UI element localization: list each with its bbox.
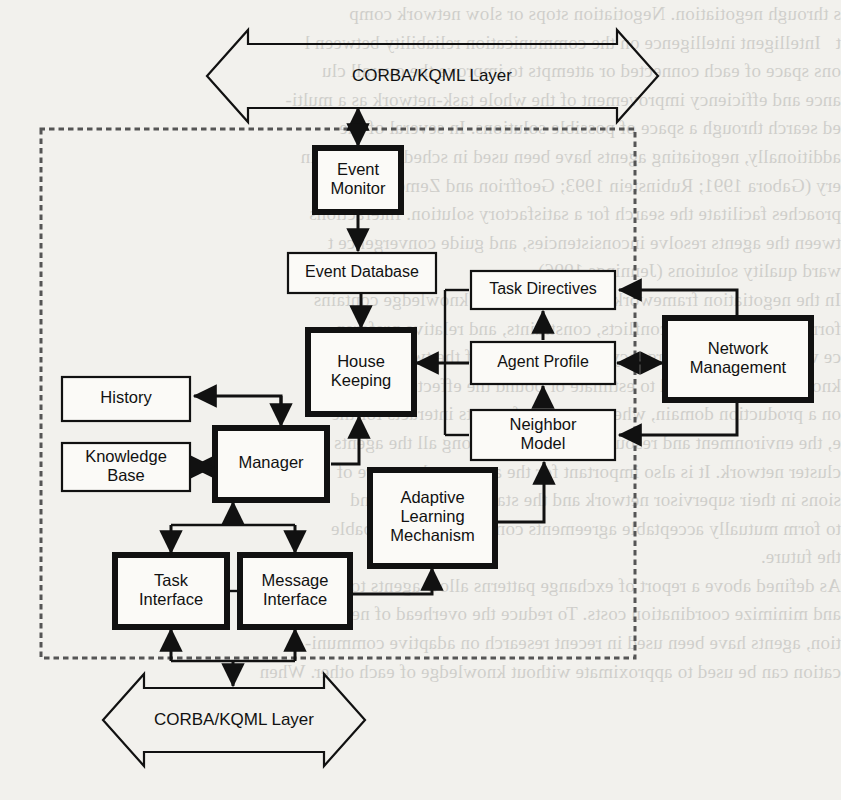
architecture-diagram: CORBA/KQML Layer CORBA/KQML Layer EventM… xyxy=(0,0,841,800)
top-corba-kqml-layer: CORBA/KQML Layer xyxy=(207,30,658,122)
conn-manager-housekeeping xyxy=(331,416,359,464)
node-label-history: History xyxy=(100,388,152,406)
node-label-neighbor-model: Model xyxy=(521,434,566,452)
node-boxes: EventMonitorEvent DatabaseHouseKeepingHi… xyxy=(62,148,811,627)
node-event-monitor: EventMonitor xyxy=(315,148,401,212)
node-label-event-monitor: Event xyxy=(337,160,380,178)
node-label-task-interface: Task xyxy=(154,571,189,589)
node-label-manager: Manager xyxy=(238,453,304,471)
node-history: History xyxy=(62,377,190,421)
node-label-agent-profile: Agent Profile xyxy=(497,353,589,370)
node-label-house-keeping: House xyxy=(337,352,385,370)
node-task-interface: TaskInterface xyxy=(115,555,227,627)
node-label-adaptive-learning: Learning xyxy=(400,507,464,525)
node-label-knowledge-base: Base xyxy=(107,466,145,484)
node-label-network-management: Management xyxy=(690,358,787,376)
node-agent-profile: Agent Profile xyxy=(471,342,615,384)
node-label-neighbor-model: Neighbor xyxy=(510,415,577,433)
node-label-task-interface: Interface xyxy=(139,590,203,608)
node-label-network-management: Network xyxy=(708,339,769,357)
node-adaptive-learning: AdaptiveLearningMechanism xyxy=(370,470,495,566)
node-label-adaptive-learning: Adaptive xyxy=(400,488,464,506)
node-label-event-database: Event Database xyxy=(305,263,419,280)
node-house-keeping: HouseKeeping xyxy=(308,330,414,414)
node-label-message-interface: Message xyxy=(262,571,329,589)
conn-messageinterface-adaptivelearning xyxy=(350,568,432,594)
node-label-adaptive-learning: Mechanism xyxy=(390,526,474,544)
node-manager: Manager xyxy=(215,428,327,500)
node-label-task-directives: Task Directives xyxy=(489,280,597,297)
node-task-directives: Task Directives xyxy=(471,271,615,309)
top-corba-kqml-layer-label: CORBA/KQML Layer xyxy=(352,66,512,85)
node-label-knowledge-base: Knowledge xyxy=(85,447,167,465)
conn-housekeeping-history xyxy=(194,396,281,414)
conn-networkmanagement-taskdirectives xyxy=(619,290,737,316)
node-neighbor-model: NeighborModel xyxy=(471,410,615,460)
bottom-corba-kqml-layer: CORBA/KQML Layer xyxy=(103,674,365,766)
node-knowledge-base: KnowledgeBase xyxy=(62,443,190,491)
conn-networkmanagement-neighbormodel xyxy=(619,402,737,435)
node-label-event-monitor: Monitor xyxy=(330,179,386,197)
node-label-message-interface: Interface xyxy=(263,590,327,608)
diagram-stage: s through negotiation. Negotiation stops… xyxy=(0,0,841,800)
node-event-database: Event Database xyxy=(288,253,436,293)
conn-adaptivelearning-neighbormodel xyxy=(495,462,544,522)
node-message-interface: MessageInterface xyxy=(240,555,350,627)
node-label-house-keeping: Keeping xyxy=(331,371,392,389)
bottom-corba-kqml-layer-label: CORBA/KQML Layer xyxy=(154,710,314,729)
node-network-management: NetworkManagement xyxy=(665,318,811,400)
